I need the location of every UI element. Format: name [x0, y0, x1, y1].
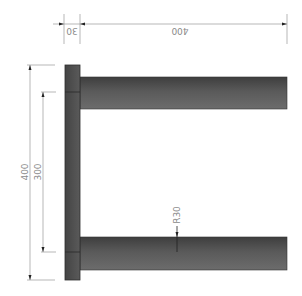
top-dimension: [53, 14, 287, 44]
dim-text-400-left: 400: [20, 163, 30, 180]
dim-text-300: 300: [33, 163, 43, 180]
dim-text-400-top: 400: [171, 26, 188, 36]
r30-arrow: [176, 232, 179, 237]
bottom-rod: [80, 237, 287, 270]
base-plate: [65, 65, 80, 280]
dim-text-r30: R30: [172, 206, 182, 224]
top-rod: [80, 77, 287, 109]
part: [65, 65, 287, 280]
technical-drawing: 30 400 400 300 R30: [0, 0, 302, 296]
dim-text-30: 30: [66, 26, 78, 36]
